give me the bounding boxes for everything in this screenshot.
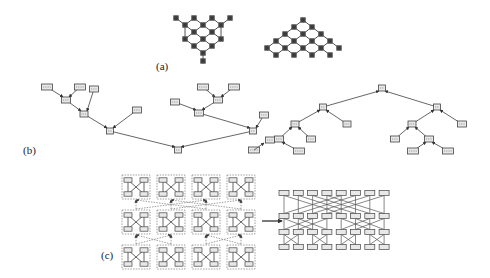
lattice-node (210, 16, 214, 20)
lattice-node (228, 16, 232, 20)
tree-node-box (171, 99, 180, 105)
butterfly-module (192, 245, 220, 269)
lattice-node (310, 53, 314, 57)
panel-a-lattice-upright (265, 18, 341, 57)
butterfly-node (322, 245, 332, 250)
lattice-node (265, 46, 269, 50)
lattice-node (292, 39, 296, 43)
butterfly-node (279, 230, 289, 235)
lattice-node (210, 44, 214, 48)
butterfly-node (351, 214, 361, 219)
lattice-node (328, 39, 332, 43)
tree-node-box (214, 97, 223, 103)
butterfly-module (157, 175, 185, 199)
butterfly-module (157, 245, 185, 269)
butterfly-node (379, 191, 389, 196)
butterfly-module (227, 210, 255, 234)
butterfly-node (365, 214, 375, 219)
lattice-node (192, 30, 196, 34)
butterfly-node (279, 214, 289, 219)
panel-a-label: (a) (156, 60, 168, 72)
panel-b-right-tree (275, 85, 467, 154)
tree-node-box (458, 121, 467, 127)
lattice-node (301, 46, 305, 50)
lattice-node (301, 18, 305, 22)
lattice-node (292, 53, 296, 57)
lattice-node (192, 16, 196, 20)
lattice-node (274, 39, 278, 43)
butterfly-node (351, 245, 361, 250)
lattice-node (219, 37, 223, 41)
butterfly-module (192, 175, 220, 199)
tree-node-box (260, 112, 269, 118)
butterfly-node (308, 214, 318, 219)
butterfly-node (308, 245, 318, 250)
butterfly-module (122, 175, 150, 199)
lattice-node (283, 46, 287, 50)
butterfly-node (379, 230, 389, 235)
butterfly-node (293, 230, 303, 235)
lattice-node (292, 25, 296, 29)
butterfly-node (279, 191, 289, 196)
tree-node-box (133, 107, 142, 113)
lattice-node (183, 23, 187, 27)
butterfly-module (122, 210, 150, 234)
lattice-node (310, 25, 314, 29)
lattice-node (201, 23, 205, 27)
lattice-node (337, 46, 341, 50)
tree-node-box (90, 86, 99, 92)
butterfly-node (279, 245, 289, 250)
panel-c-butterfly-network (279, 191, 389, 250)
lattice-node (301, 32, 305, 36)
butterfly-node (293, 191, 303, 196)
tree-node-box (391, 136, 400, 142)
lattice-node (174, 16, 178, 20)
panel-a-lattice-inverted (174, 16, 232, 63)
lattice-node (319, 46, 323, 50)
butterfly-module (192, 210, 220, 234)
tree-node-box (266, 137, 275, 143)
butterfly-node (379, 245, 389, 250)
tree-node-box (307, 136, 316, 142)
butterfly-node (351, 230, 361, 235)
butterfly-node (365, 245, 375, 250)
butterfly-node (322, 214, 332, 219)
lattice-node (210, 30, 214, 34)
panel-c-label: (c) (101, 249, 113, 261)
tree-node-box (275, 136, 284, 142)
butterfly-node (336, 230, 346, 235)
butterfly-module (227, 175, 255, 199)
lattice-node (201, 59, 205, 63)
lattice-node (283, 32, 287, 36)
lattice-node (310, 39, 314, 43)
butterfly-node (308, 191, 318, 196)
butterfly-module (227, 245, 255, 269)
panel-c-module-grid (122, 175, 255, 269)
tree-node-box (195, 110, 204, 116)
butterfly-node (365, 230, 375, 235)
tree-node-box (62, 97, 71, 103)
panel-b-left-tree (42, 84, 275, 153)
butterfly-node (293, 214, 303, 219)
butterfly-module (157, 210, 185, 234)
butterfly-node (322, 191, 332, 196)
lattice-node (319, 32, 323, 36)
lattice-node (201, 51, 205, 55)
butterfly-module (122, 245, 150, 269)
tree-node-box (425, 136, 434, 142)
butterfly-node (336, 245, 346, 250)
lattice-node (219, 23, 223, 27)
butterfly-node (336, 214, 346, 219)
butterfly-node (365, 191, 375, 196)
butterfly-node (308, 230, 318, 235)
panel-b-label: (b) (23, 144, 36, 156)
butterfly-node (293, 245, 303, 250)
butterfly-node (379, 214, 389, 219)
lattice-node (328, 53, 332, 57)
figure-canvas (0, 0, 490, 278)
lattice-node (201, 37, 205, 41)
butterfly-node (351, 191, 361, 196)
lattice-node (274, 53, 278, 57)
lattice-node (192, 44, 196, 48)
butterfly-node (322, 230, 332, 235)
